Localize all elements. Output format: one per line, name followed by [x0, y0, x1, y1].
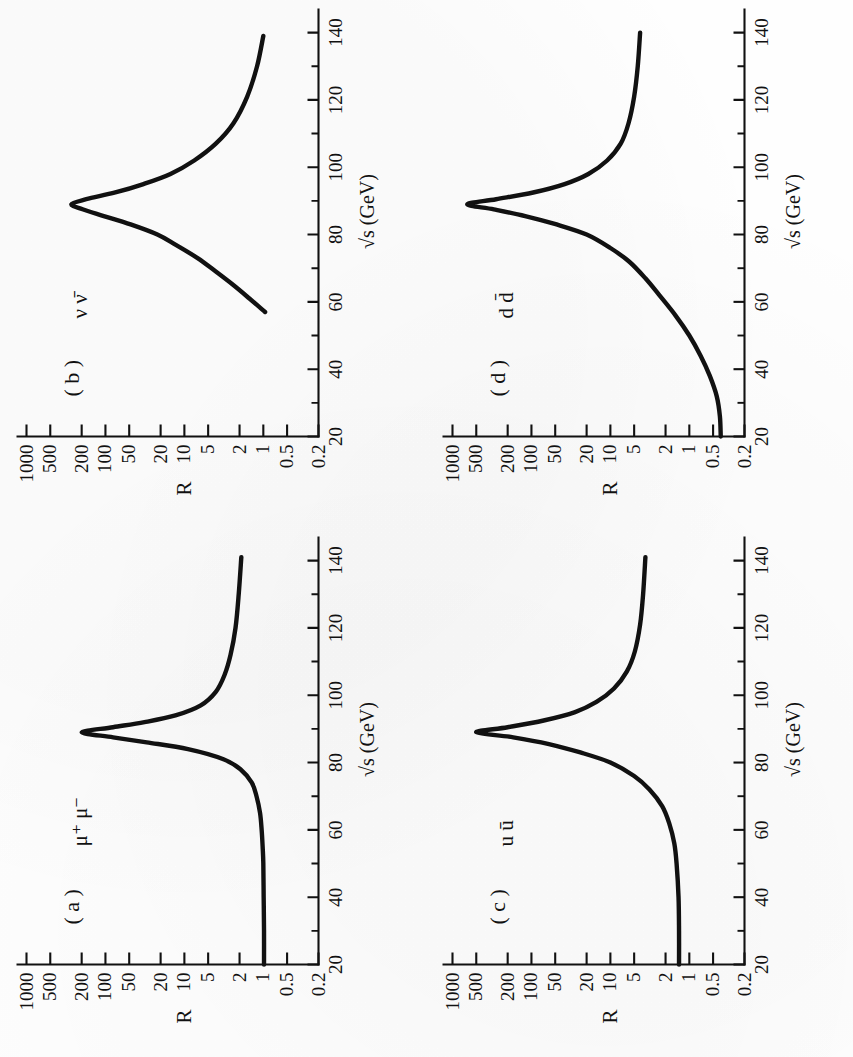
y-tick-label: 20 — [149, 973, 170, 992]
x-tick-label: 100 — [751, 681, 772, 710]
y-tick-label: 50 — [544, 973, 565, 992]
x-tick-label: 40 — [324, 359, 345, 378]
y-tick-label: 100 — [94, 973, 115, 1002]
plot-panel-c: 204060801001201400.20.512510205010020050… — [427, 529, 853, 1057]
plot-canvas-a: 204060801001201400.20.512510205010020050… — [0, 529, 427, 1057]
plot-panel-d: 204060801001201400.20.512510205010020050… — [427, 0, 853, 528]
x-tick-label: 60 — [751, 820, 772, 839]
y-tick-label: 10 — [173, 444, 194, 463]
resonance-curve — [81, 557, 263, 964]
x-axis-title: √s (GeV) — [782, 702, 805, 777]
y-axis-title: R — [598, 481, 622, 495]
panel-slot-d: 204060801001201400.20.512510205010020050… — [427, 0, 853, 528]
plot-canvas-b: 204060801001201400.20.512510205010020050… — [0, 0, 427, 528]
y-tick-label: 2 — [655, 444, 676, 454]
y-tick-label: 5 — [623, 973, 644, 983]
x-tick-label: 140 — [324, 18, 345, 47]
y-tick-label: 100 — [520, 444, 541, 473]
y-tick-label: 2 — [228, 973, 249, 983]
y-tick-label: 0.2 — [307, 444, 328, 468]
y-tick-label: 100 — [94, 444, 115, 473]
x-tick-label: 100 — [751, 152, 772, 181]
x-tick-label: 120 — [751, 614, 772, 643]
panel-slot-b: 204060801001201400.20.512510205010020050… — [0, 0, 427, 528]
y-tick-label: 5 — [197, 444, 218, 454]
x-tick-label: 120 — [324, 614, 345, 643]
plot-panel-a: 204060801001201400.20.512510205010020050… — [0, 529, 427, 1057]
x-tick-label: 60 — [324, 820, 345, 839]
y-tick-label: 1000 — [442, 973, 463, 1011]
x-tick-label: 20 — [751, 955, 772, 974]
y-axis-title: R — [172, 481, 196, 495]
x-tick-label: 100 — [324, 152, 345, 181]
y-axis-title: R — [598, 1009, 622, 1023]
y-tick-label: 0.2 — [734, 973, 755, 997]
y-tick-label: 200 — [497, 973, 518, 1002]
x-tick-label: 40 — [751, 888, 772, 907]
x-tick-label: 40 — [751, 359, 772, 378]
panel-process-label: u ū — [494, 820, 518, 847]
panel-process-label: μ⁺ μ⁻ — [67, 797, 91, 847]
y-tick-label: 0.5 — [276, 444, 297, 468]
y-tick-label: 500 — [465, 973, 486, 1002]
y-tick-label: 50 — [118, 444, 139, 463]
y-tick-label: 20 — [576, 444, 597, 463]
y-tick-label: 10 — [599, 973, 620, 992]
y-tick-label: 500 — [39, 973, 60, 1002]
y-tick-label: 2 — [655, 973, 676, 983]
panel-slot-a: 204060801001201400.20.512510205010020050… — [0, 528, 427, 1057]
x-tick-label: 140 — [751, 18, 772, 47]
y-axis-title: R — [172, 1009, 196, 1023]
y-tick-label: 1 — [678, 973, 699, 983]
x-tick-label: 80 — [324, 225, 345, 244]
y-tick-label: 5 — [623, 444, 644, 454]
y-tick-label: 500 — [465, 444, 486, 473]
x-tick-label: 80 — [324, 753, 345, 772]
plot-canvas-d: 204060801001201400.20.512510205010020050… — [427, 0, 853, 528]
y-tick-label: 0.5 — [702, 444, 723, 468]
panel-letter: ( c ) — [485, 889, 510, 924]
y-tick-label: 200 — [70, 444, 91, 473]
panel-process-label: ν ν̄ — [67, 290, 91, 318]
y-tick-label: 200 — [497, 444, 518, 473]
x-tick-label: 60 — [324, 292, 345, 311]
x-tick-label: 120 — [751, 85, 772, 114]
y-tick-label: 1 — [252, 973, 273, 983]
panel-slot-c: 204060801001201400.20.512510205010020050… — [427, 528, 853, 1057]
x-tick-label: 140 — [751, 546, 772, 575]
y-tick-label: 5 — [197, 973, 218, 983]
y-tick-label: 1000 — [15, 973, 36, 1011]
y-tick-label: 1000 — [15, 444, 36, 482]
x-axis-title: √s (GeV) — [782, 174, 805, 249]
x-tick-label: 80 — [751, 753, 772, 772]
x-tick-label: 120 — [324, 85, 345, 114]
x-axis-title: √s (GeV) — [355, 702, 378, 777]
panel-letter: ( b ) — [58, 359, 83, 396]
y-tick-label: 20 — [576, 973, 597, 992]
x-tick-label: 60 — [751, 292, 772, 311]
y-tick-label: 100 — [520, 973, 541, 1002]
y-tick-label: 50 — [118, 973, 139, 992]
panel-process-label: d d̄ — [494, 291, 518, 318]
y-tick-label: 10 — [599, 444, 620, 463]
y-tick-label: 1000 — [442, 444, 463, 482]
panel-letter: ( a ) — [58, 889, 83, 924]
y-tick-label: 20 — [149, 444, 170, 463]
y-tick-label: 1 — [252, 444, 273, 454]
x-tick-label: 20 — [751, 427, 772, 446]
figure-page: 204060801001201400.20.512510205010020050… — [0, 0, 853, 1057]
y-tick-label: 500 — [39, 444, 60, 473]
y-tick-label: 1 — [678, 444, 699, 454]
plot-panel-b: 204060801001201400.20.512510205010020050… — [0, 0, 427, 528]
y-tick-label: 50 — [544, 444, 565, 463]
x-axis-title: √s (GeV) — [355, 174, 378, 249]
y-tick-label: 0.5 — [702, 973, 723, 997]
y-tick-label: 2 — [228, 444, 249, 454]
x-tick-label: 140 — [324, 546, 345, 575]
y-tick-label: 0.2 — [307, 973, 328, 997]
y-tick-label: 200 — [70, 973, 91, 1002]
y-tick-label: 0.2 — [734, 444, 755, 468]
x-tick-label: 100 — [324, 681, 345, 710]
panel-letter: ( d ) — [485, 359, 510, 396]
x-tick-label: 20 — [324, 427, 345, 446]
